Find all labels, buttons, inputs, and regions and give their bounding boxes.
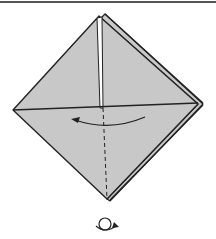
turn-over-icon [96, 218, 119, 230]
origami-diagram [0, 0, 216, 239]
